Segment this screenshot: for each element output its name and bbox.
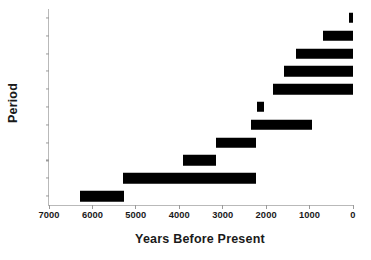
bar-ch	[123, 173, 256, 184]
x-axis-title-label: Years Before Present	[135, 232, 265, 246]
bar-ei	[323, 30, 353, 41]
bar-row	[49, 98, 353, 116]
x-tick-label-3000: 3000	[200, 210, 246, 220]
bar-ir	[251, 120, 312, 131]
bar-he	[257, 102, 264, 113]
x-tick-mark-6000	[92, 205, 93, 209]
x-tick-label-6000: 6000	[69, 210, 115, 220]
bar-nb	[273, 84, 353, 95]
x-tick-mark-7000	[49, 205, 50, 209]
bar-pn	[80, 191, 124, 202]
x-tick-mark-1000	[309, 205, 310, 209]
bar-row	[49, 116, 353, 134]
y-axis-title: Period	[0, 0, 26, 205]
x-tick-mark-4000	[179, 205, 180, 209]
bar-row	[49, 169, 353, 187]
bar-row	[49, 152, 353, 170]
bar-row	[49, 27, 353, 45]
chart-container: Period LIEIBZRONBHEIRMLEBCHPN70006000500…	[0, 0, 371, 260]
bar-ml	[216, 137, 256, 148]
bar-row	[49, 9, 353, 27]
x-tick-label-0: 0	[330, 210, 371, 220]
x-tick-mark-5000	[135, 205, 136, 209]
bar-bz	[296, 48, 353, 59]
x-tick-mark-3000	[222, 205, 223, 209]
x-tick-mark-0	[353, 205, 354, 209]
bar-row	[49, 187, 353, 205]
x-tick-mark-2000	[266, 205, 267, 209]
bar-row	[49, 62, 353, 80]
bar-row	[49, 134, 353, 152]
plot-area: LIEIBZRONBHEIRMLEBCHPN700060005000400030…	[48, 9, 353, 206]
x-tick-label-2000: 2000	[243, 210, 289, 220]
x-tick-label-7000: 7000	[26, 210, 72, 220]
x-tick-label-1000: 1000	[287, 210, 333, 220]
bar-row	[49, 80, 353, 98]
x-axis-title: Years Before Present	[48, 232, 352, 246]
y-axis-title-label: Period	[6, 82, 20, 122]
bar-eb	[183, 155, 216, 166]
bar-li	[349, 13, 354, 24]
bar-row	[49, 45, 353, 63]
bar-ro	[284, 66, 353, 77]
x-tick-label-5000: 5000	[113, 210, 159, 220]
x-tick-label-4000: 4000	[156, 210, 202, 220]
